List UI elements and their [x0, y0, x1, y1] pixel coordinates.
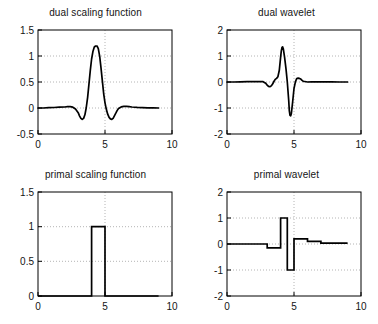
- svg-text:10: 10: [166, 139, 178, 150]
- svg-text:1: 1: [217, 213, 223, 224]
- svg-text:10: 10: [166, 301, 178, 312]
- svg-text:2: 2: [217, 187, 223, 198]
- svg-text:1.5: 1.5: [20, 187, 34, 198]
- svg-text:1: 1: [217, 51, 223, 62]
- svg-text:0: 0: [28, 291, 34, 302]
- svg-text:0: 0: [224, 301, 230, 312]
- xtick-labels-dual-wavelet: 0 5 10: [224, 139, 367, 150]
- panel-title-primal-wavelet: primal wavelet: [203, 169, 370, 180]
- data-line-primal-wavelet: [227, 218, 348, 270]
- xtick-labels-dual-scaling-function: 0 5 10: [35, 139, 178, 150]
- panel-primal-wavelet: primal wavelet: [189, 166, 378, 324]
- svg-text:0.5: 0.5: [20, 77, 34, 88]
- panel-primal-scaling-function: primal scaling function: [0, 166, 189, 324]
- ytick-labels-dual-scaling-function: 1.5 1 0.5 0 -0.5: [17, 25, 35, 140]
- svg-text:-1: -1: [214, 103, 223, 114]
- wavelet-figure: dual scaling function: [0, 0, 378, 324]
- svg-text:1: 1: [28, 51, 34, 62]
- axes-primal-scaling-function: 1.5 1 0.5 0 0 5 10: [0, 180, 189, 324]
- axes-primal-wavelet: 2 1 0 -1 -2 0 5 10: [189, 180, 378, 324]
- svg-text:1.5: 1.5: [20, 25, 34, 36]
- plot-svg-dual-scaling-function: 1.5 1 0.5 0 -0.5 0 5 10: [0, 18, 189, 162]
- axes-dual-wavelet: 2 1 0 -1 -2 0 5 10: [189, 18, 378, 162]
- svg-text:-2: -2: [214, 129, 223, 140]
- svg-text:0: 0: [217, 77, 223, 88]
- ytick-labels-primal-scaling-function: 1.5 1 0.5 0: [20, 187, 34, 302]
- ytick-labels-dual-wavelet: 2 1 0 -1 -2: [214, 25, 223, 140]
- svg-text:-1: -1: [214, 265, 223, 276]
- svg-text:0: 0: [28, 103, 34, 114]
- svg-text:5: 5: [291, 139, 297, 150]
- plot-svg-primal-scaling-function: 1.5 1 0.5 0 0 5 10: [0, 180, 189, 324]
- plot-svg-primal-wavelet: 2 1 0 -1 -2 0 5 10: [189, 180, 378, 324]
- svg-text:1: 1: [28, 221, 34, 232]
- svg-text:5: 5: [102, 139, 108, 150]
- panel-dual-scaling-function: dual scaling function: [0, 4, 189, 162]
- svg-text:0: 0: [224, 139, 230, 150]
- svg-text:5: 5: [291, 301, 297, 312]
- panel-title-dual-scaling-function: dual scaling function: [10, 7, 181, 18]
- panel-title-dual-wavelet: dual wavelet: [203, 7, 370, 18]
- panel-dual-wavelet: dual wavelet: [189, 4, 378, 162]
- svg-text:0: 0: [35, 139, 41, 150]
- axes-dual-scaling-function: 1.5 1 0.5 0 -0.5 0 5 10: [0, 18, 189, 162]
- svg-text:-2: -2: [214, 291, 223, 302]
- svg-text:-0.5: -0.5: [17, 129, 35, 140]
- xtick-labels-primal-wavelet: 0 5 10: [224, 301, 367, 312]
- data-line-dual-wavelet: [227, 47, 348, 116]
- svg-text:2: 2: [217, 25, 223, 36]
- xtick-labels-primal-scaling-function: 0 5 10: [35, 301, 178, 312]
- svg-text:0: 0: [217, 239, 223, 250]
- svg-text:10: 10: [355, 301, 367, 312]
- plot-svg-dual-wavelet: 2 1 0 -1 -2 0 5 10: [189, 18, 378, 162]
- svg-text:0.5: 0.5: [20, 256, 34, 267]
- svg-text:0: 0: [35, 301, 41, 312]
- svg-text:10: 10: [355, 139, 367, 150]
- ytick-labels-primal-wavelet: 2 1 0 -1 -2: [214, 187, 223, 302]
- gridlines-dual-scaling-function: [38, 30, 172, 134]
- panel-title-primal-scaling-function: primal scaling function: [10, 169, 181, 180]
- svg-text:5: 5: [102, 301, 108, 312]
